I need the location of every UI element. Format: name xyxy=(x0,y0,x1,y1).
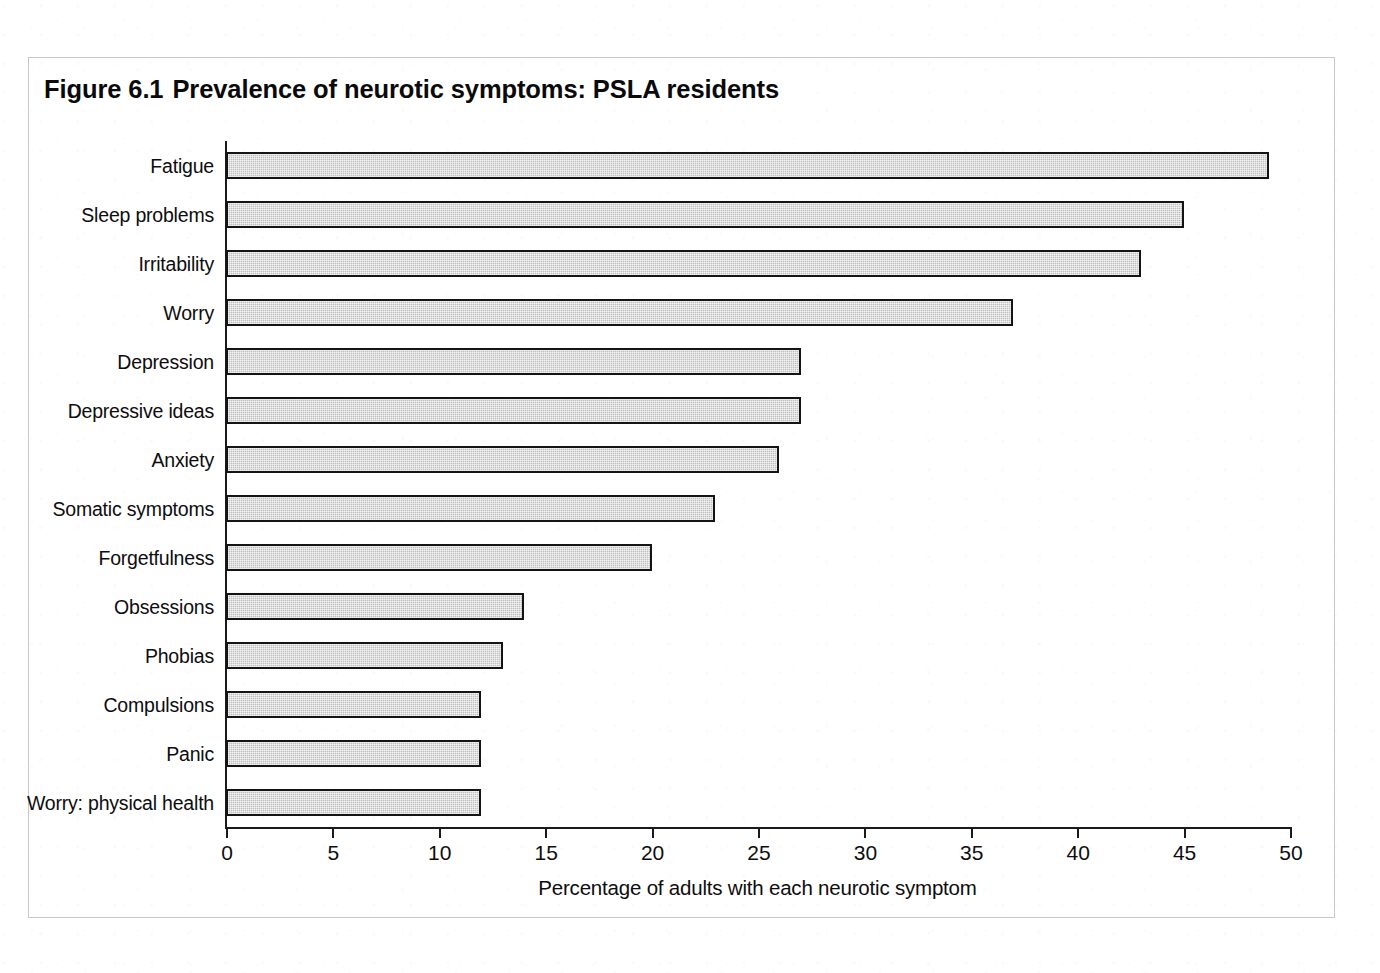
bar xyxy=(226,299,1013,326)
bar-row: Depressive ideas xyxy=(226,386,1290,435)
bar-category-label: Phobias xyxy=(145,644,214,667)
bar-category-label: Panic xyxy=(166,742,214,765)
bar-category-label: Worry: physical health xyxy=(27,791,214,814)
x-axis-tick xyxy=(971,827,973,838)
bar xyxy=(226,593,524,620)
x-axis-tick xyxy=(332,827,334,838)
bar xyxy=(226,152,1269,179)
x-axis-tick-label: 40 xyxy=(1067,841,1090,865)
x-axis-tick-label: 45 xyxy=(1173,841,1196,865)
bar-category-label: Depressive ideas xyxy=(68,399,214,422)
bar xyxy=(226,642,503,669)
x-axis-tick xyxy=(652,827,654,838)
bars-area: FatigueSleep problemsIrritabilityWorryDe… xyxy=(226,141,1290,827)
figure-frame: Figure 6.1Prevalence of neurotic symptom… xyxy=(28,57,1335,918)
bar-row: Compulsions xyxy=(226,680,1290,729)
bar-row: Worry: physical health xyxy=(226,778,1290,827)
bar xyxy=(226,740,481,767)
x-axis-tick-label: 30 xyxy=(854,841,877,865)
bar-category-label: Worry xyxy=(163,301,214,324)
bar xyxy=(226,495,715,522)
bar-row: Worry xyxy=(226,288,1290,337)
bar-row: Irritability xyxy=(226,239,1290,288)
bar-row: Panic xyxy=(226,729,1290,778)
x-axis-tick-label: 25 xyxy=(747,841,770,865)
x-axis-tick-label: 15 xyxy=(535,841,558,865)
x-axis-tick xyxy=(226,827,228,838)
x-axis-tick-label: 0 xyxy=(221,841,233,865)
bar xyxy=(226,201,1184,228)
bar-row: Depression xyxy=(226,337,1290,386)
x-axis-tick xyxy=(1184,827,1186,838)
x-axis-tick xyxy=(864,827,866,838)
x-axis-tick-label: 10 xyxy=(428,841,451,865)
bar-row: Obsessions xyxy=(226,582,1290,631)
x-axis-tick-label: 20 xyxy=(641,841,664,865)
x-axis-tick xyxy=(1077,827,1079,838)
x-axis-tick-label: 50 xyxy=(1279,841,1302,865)
bar xyxy=(226,348,801,375)
bar-row: Somatic symptoms xyxy=(226,484,1290,533)
bar-category-label: Anxiety xyxy=(151,448,214,471)
bar-category-label: Depression xyxy=(117,350,214,373)
bar-category-label: Irritability xyxy=(138,252,214,275)
bar-row: Fatigue xyxy=(226,141,1290,190)
bar-category-label: Compulsions xyxy=(103,693,214,716)
x-axis-tick-label: 5 xyxy=(328,841,340,865)
bar-row: Forgetfulness xyxy=(226,533,1290,582)
x-axis-tick xyxy=(758,827,760,838)
bar-row: Anxiety xyxy=(226,435,1290,484)
bar-category-label: Somatic symptoms xyxy=(52,497,214,520)
bar-row: Sleep problems xyxy=(226,190,1290,239)
x-axis-tick xyxy=(545,827,547,838)
x-axis-tick-label: 35 xyxy=(960,841,983,865)
x-axis-tick xyxy=(439,827,441,838)
bar-category-label: Obsessions xyxy=(114,595,214,618)
bar xyxy=(226,250,1141,277)
bar-chart: FatigueSleep problemsIrritabilityWorryDe… xyxy=(29,58,1336,919)
bar xyxy=(226,446,779,473)
bar xyxy=(226,544,652,571)
x-axis-title: Percentage of adults with each neurotic … xyxy=(225,876,1290,900)
bar xyxy=(226,691,481,718)
bar xyxy=(226,789,481,816)
bar-category-label: Fatigue xyxy=(150,154,214,177)
bar-category-label: Sleep problems xyxy=(81,203,214,226)
bar-category-label: Forgetfulness xyxy=(98,546,214,569)
bar xyxy=(226,397,801,424)
bar-row: Phobias xyxy=(226,631,1290,680)
x-axis-tick xyxy=(1290,827,1292,838)
